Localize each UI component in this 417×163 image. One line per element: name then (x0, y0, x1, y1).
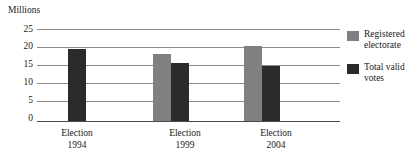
chart-legend: Registered electorate Total valid votes (347, 29, 417, 95)
legend-valid-line2: votes (364, 73, 405, 84)
bar-2004-registered-electorate (244, 46, 262, 121)
bar-2004-total-valid-votes (262, 66, 280, 121)
bar-chart: Millions 25 20 15 10 5 0 Election 1994 E… (0, 0, 417, 163)
x-label-election-1994: Election 1994 (37, 127, 117, 151)
x-label-election-2004: Election 2004 (236, 127, 316, 151)
x-label-1999-line2: 1999 (145, 139, 225, 151)
bar-1999-total-valid-votes (171, 63, 189, 121)
y-tick-25: 25 (9, 24, 33, 34)
y-axis-unit-caption: Millions (8, 5, 40, 16)
legend-swatch-registered-electorate (347, 31, 359, 41)
legend-registered-line2: electorate (364, 40, 405, 51)
x-label-election-1999: Election 1999 (145, 127, 225, 151)
x-label-1999-line1: Election (145, 127, 225, 139)
plot-area (37, 29, 340, 122)
x-label-2004-line1: Election (236, 127, 316, 139)
x-label-2004-line2: 2004 (236, 139, 316, 151)
gridline-25 (37, 29, 340, 30)
legend-entry-registered-electorate: Registered electorate (347, 29, 417, 51)
legend-label-total-valid-votes: Total valid votes (364, 62, 405, 84)
legend-valid-line1: Total valid (364, 62, 405, 73)
y-tick-5: 5 (9, 95, 33, 105)
y-tick-20: 20 (9, 41, 33, 51)
gridline-20 (37, 47, 340, 48)
legend-swatch-total-valid-votes (347, 64, 359, 74)
y-tick-0: 0 (9, 113, 33, 123)
legend-label-registered-electorate: Registered electorate (364, 29, 405, 51)
legend-entry-total-valid-votes: Total valid votes (347, 62, 417, 84)
legend-registered-line1: Registered (364, 29, 405, 40)
y-tick-10: 10 (9, 77, 33, 87)
bar-1994-total-valid-votes (68, 49, 86, 121)
x-label-1994-line2: 1994 (37, 139, 117, 151)
y-tick-15: 15 (9, 59, 33, 69)
x-label-1994-line1: Election (37, 127, 117, 139)
x-axis-baseline (37, 121, 340, 122)
bar-1999-registered-electorate (153, 54, 171, 121)
